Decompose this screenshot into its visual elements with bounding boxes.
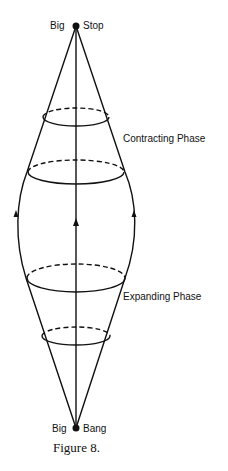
contracting-phase-label: Contracting Phase: [123, 134, 205, 144]
universe-diagram: [0, 0, 228, 471]
big-bang-label-right: Bang: [83, 424, 106, 434]
big-bang-label-left: Big: [52, 424, 66, 434]
big-bang-dot-icon: [73, 425, 80, 432]
expanding-phase-label: Expanding Phase: [123, 292, 201, 302]
arrow-up-center-icon: [73, 218, 79, 226]
big-stop-dot-icon: [73, 23, 80, 30]
outline-right: [76, 26, 135, 428]
outline-left: [18, 26, 76, 428]
arrow-up-right-icon: [132, 210, 137, 217]
big-stop-label-left: Big: [50, 21, 64, 31]
figure-caption: Figure 8.: [53, 441, 100, 454]
big-stop-label-right: Stop: [83, 21, 104, 31]
